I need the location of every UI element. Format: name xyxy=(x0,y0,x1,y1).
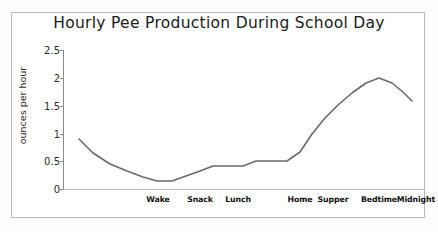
data-series-line xyxy=(79,78,412,181)
chart-figure: Hourly Pee Production During School Day … xyxy=(0,0,438,232)
y-axis-tickmarks xyxy=(60,51,64,190)
plot-area xyxy=(0,0,438,232)
